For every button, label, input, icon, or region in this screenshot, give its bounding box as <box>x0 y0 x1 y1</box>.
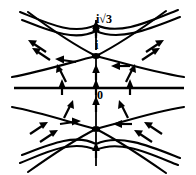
field-arrow-lr-4 <box>118 100 128 118</box>
separatrix-lower-right-branch <box>96 56 184 77</box>
field-arrow-ll-2 <box>40 130 58 142</box>
field-arrow-ll-1 <box>30 122 48 134</box>
separatrix-lower-saddle-down-left <box>28 129 96 172</box>
phase-portrait-figure: i√3 i 0 <box>0 0 196 175</box>
axis-arrow-upper-mid <box>92 64 100 80</box>
separatrix-lower-saddle-up-right <box>96 107 184 129</box>
arrow-cluster-lower-left <box>30 100 81 142</box>
lower-saddle-separatrices <box>12 107 184 173</box>
separatrix-lower-saddle-down-right <box>96 129 166 173</box>
upper-saddle-point <box>92 53 100 59</box>
field-arrow-ll-4 <box>64 100 74 118</box>
field-arrow-lr-2 <box>134 130 152 142</box>
label-i: i <box>95 39 98 51</box>
axis-arrow-below-lower-saddle <box>92 142 100 158</box>
arrow-cluster-lower-right <box>113 100 162 142</box>
field-arrow-lr-1 <box>144 122 162 134</box>
label-i-sqrt-three: i√3 <box>96 13 112 25</box>
separatrix-lower-left-branch <box>12 56 96 77</box>
separatrix-lower-saddle-up-left <box>12 107 96 129</box>
field-arrow-ul-3 <box>55 56 76 64</box>
arrow-cluster-upper-left <box>28 40 76 82</box>
field-arrow-ul-4 <box>56 64 66 82</box>
lower-saddle-point <box>92 126 100 132</box>
label-origin-zero: 0 <box>97 89 103 101</box>
